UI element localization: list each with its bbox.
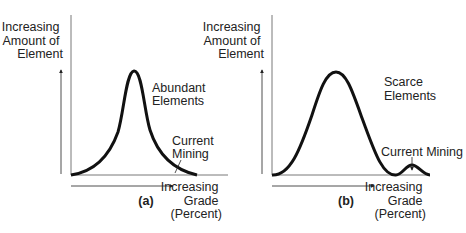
svg-text:Current Mining: Current Mining <box>172 134 217 161</box>
panel-a-mining-label-line1: Current <box>172 134 214 148</box>
panel-a-x-label-line3: (Percent) <box>171 207 222 221</box>
panel-a-curve-label-line2: Elements <box>152 94 204 108</box>
panel-b-x-label-line3: (Percent) <box>375 207 426 221</box>
svg-text:Abundant Elements: Abundant Elements <box>152 81 209 108</box>
svg-text:Increasing Amount of: Increasing Amount of Element <box>2 20 64 61</box>
grade-tonnage-diagram: Increasing Amount of Element Abundant El… <box>0 0 466 233</box>
panel-b-curve-label-line1: Scarce <box>384 75 423 89</box>
panel-a-x-label-line1: Increasing <box>161 180 219 194</box>
panel-b: Scarce Elements Current Mining Increasin… <box>203 15 463 221</box>
svg-text:Increasing Amount of: Increasing Amount of Element <box>203 20 265 61</box>
panel-b-y-label-line1: Increasing <box>203 20 261 34</box>
svg-text:Increasing Grade (: Increasing Grade (Percent) <box>365 180 426 221</box>
panel-a-mining-label-line2: Mining <box>172 147 209 161</box>
panel-b-caption: (b) <box>338 194 354 208</box>
panel-b-x-label-line2: Grade <box>388 194 423 208</box>
panel-b-y-label-line2: Amount of <box>204 34 262 48</box>
panel-a-y-label-line1: Increasing <box>2 20 60 34</box>
panel-a-y-label-line2: Amount of <box>3 34 61 48</box>
panel-b-y-label-line3: Element <box>218 47 264 61</box>
panel-a: Increasing Amount of Element Abundant El… <box>2 15 228 221</box>
panel-a-x-label-line2: Grade <box>184 194 219 208</box>
panel-b-mining-label: Current Mining <box>381 145 463 159</box>
svg-text:Scarce Elements: Scarce Elements <box>384 75 436 103</box>
panel-b-x-label-line1: Increasing <box>365 180 423 194</box>
panel-a-caption: (a) <box>138 194 153 208</box>
panel-b-curve-label-line2: Elements <box>384 89 436 103</box>
panel-a-y-label-line3: Element <box>17 47 63 61</box>
panel-a-curve-label-line1: Abundant <box>152 81 206 95</box>
svg-text:Increasing Grade (: Increasing Grade (Percent) <box>161 180 222 221</box>
